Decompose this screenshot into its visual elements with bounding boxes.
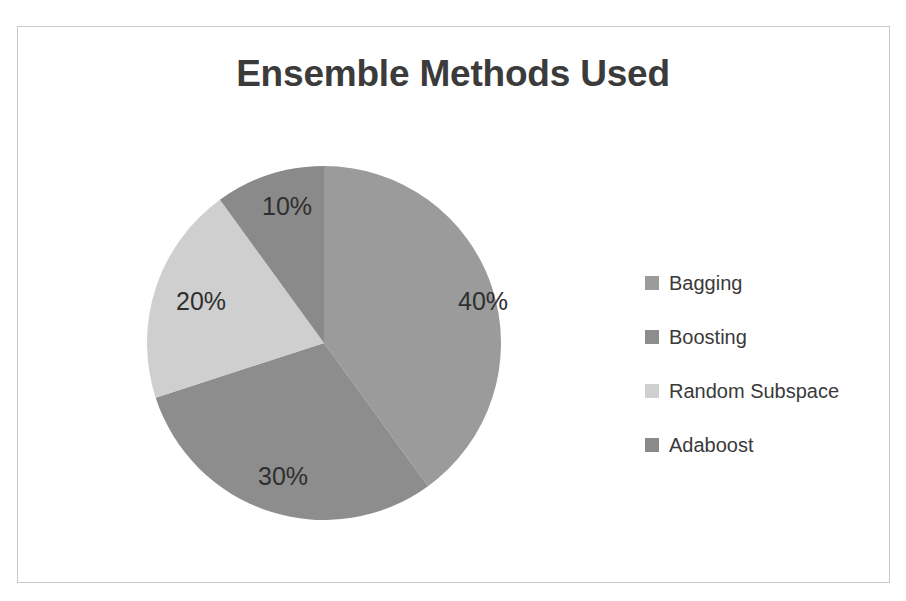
chart-legend: Bagging Boosting Random Subspace Adaboos… <box>645 256 880 472</box>
legend-item-label: Boosting <box>669 327 747 347</box>
legend-swatch-icon <box>645 384 659 398</box>
chart-screenshot: Ensemble Methods Used 40% 30% 20% 10% Ba… <box>0 0 906 601</box>
legend-item-label: Adaboost <box>669 435 754 455</box>
pie-slice-value-boosting: 30% <box>258 464 308 489</box>
legend-swatch-icon <box>645 276 659 290</box>
page-title: Ensemble Methods Used <box>0 55 906 94</box>
legend-swatch-icon <box>645 438 659 452</box>
legend-swatch-icon <box>645 330 659 344</box>
legend-item-boosting[interactable]: Boosting <box>645 310 880 364</box>
pie-chart <box>147 166 501 520</box>
legend-item-bagging[interactable]: Bagging <box>645 256 880 310</box>
pie-slice-value-random-subspace: 20% <box>176 289 226 314</box>
legend-item-random-subspace[interactable]: Random Subspace <box>645 364 880 418</box>
legend-item-label: Random Subspace <box>669 381 839 401</box>
pie-slice-value-adaboost: 10% <box>262 194 312 219</box>
pie-slice-value-bagging: 40% <box>458 289 508 314</box>
legend-item-label: Bagging <box>669 273 742 293</box>
legend-item-adaboost[interactable]: Adaboost <box>645 418 880 472</box>
pie-chart-svg <box>147 166 501 520</box>
